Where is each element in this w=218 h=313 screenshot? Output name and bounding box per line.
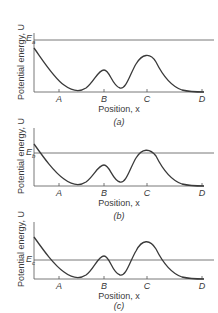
tick-label-d: D — [196, 281, 208, 291]
tick-label-a: A — [53, 281, 65, 291]
tick-label-c: C — [141, 281, 153, 291]
y-axis-label: Potential energy, U — [16, 211, 26, 287]
energy-level-label: Eb — [26, 147, 35, 159]
energy-level-label: Ec — [26, 254, 35, 266]
tick-label-b: B — [98, 281, 110, 291]
y-axis-label: Potential energy, U — [16, 24, 26, 100]
panel-c: Potential energy, U Ec A B C D Position,… — [0, 187, 218, 297]
energy-level-label: Ea — [26, 33, 35, 45]
y-axis-label: Potential energy, U — [16, 118, 26, 194]
x-axis-label: Position, x — [69, 291, 169, 301]
panel-caption-c: (c) — [99, 301, 139, 311]
